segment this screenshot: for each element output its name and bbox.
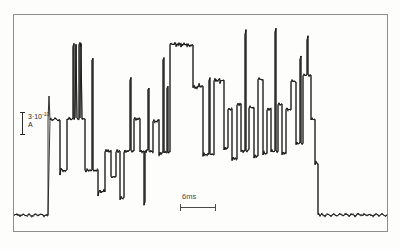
time-scale-bar bbox=[180, 207, 216, 208]
current-scale-bar bbox=[22, 112, 23, 135]
figure-root: 3·10-10 A 6ms bbox=[0, 0, 400, 249]
time-scale-bar-group: 6ms bbox=[178, 192, 238, 214]
time-scale-label: 6ms bbox=[182, 192, 196, 201]
current-scale-exponent: -10 bbox=[42, 111, 49, 117]
current-scale-unit: A bbox=[28, 120, 33, 129]
current-scale-bar-group: 3·10-10 A bbox=[20, 110, 80, 150]
